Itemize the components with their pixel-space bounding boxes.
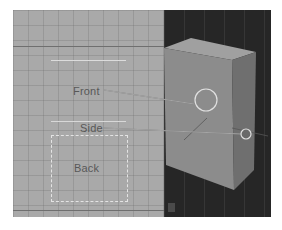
callout-overlay [13,10,271,217]
screenshot-frame: Front Side Back [13,10,271,217]
side-face-circle [241,129,251,139]
front-face-circle [195,89,217,111]
